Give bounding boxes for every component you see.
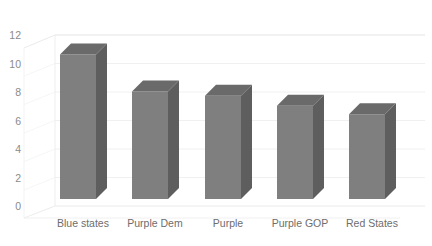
bar-side-face — [241, 85, 252, 199]
bar-side-face — [385, 103, 396, 199]
bar-purple-dem[interactable] — [132, 80, 179, 199]
y-tick-label: 8 — [15, 86, 21, 98]
bar-side-face — [96, 43, 107, 199]
bar-purple[interactable] — [205, 85, 252, 199]
bar-side-face — [313, 95, 324, 199]
chart-container: 12 10 8 6 4 2 0 — [0, 0, 432, 246]
x-category-label: Blue states — [57, 217, 109, 229]
bar-chart-3d: 12 10 8 6 4 2 0 — [0, 0, 432, 246]
bar-purple-gop[interactable] — [277, 95, 324, 199]
x-category-label: Purple GOP — [272, 217, 329, 229]
y-tick-label: 0 — [15, 200, 21, 212]
y-tick-label: 10 — [9, 58, 21, 70]
bar-front-face — [60, 54, 96, 199]
bar-blue-states[interactable] — [60, 43, 107, 199]
x-category-label: Purple Dem — [127, 217, 183, 229]
y-tick-label: 2 — [15, 172, 21, 184]
bar-red-states[interactable] — [349, 103, 396, 199]
y-tick-label: 4 — [15, 143, 21, 155]
x-category-label: Purple — [213, 217, 244, 229]
bar-front-face — [277, 106, 313, 199]
y-tick-label: 6 — [15, 115, 21, 127]
bar-front-face — [132, 91, 168, 199]
x-category-label: Red States — [346, 217, 398, 229]
bar-front-face — [349, 114, 385, 199]
x-axis-category-labels: Blue states Purple Dem Purple Purple GOP… — [57, 217, 398, 229]
bar-side-face — [168, 80, 179, 199]
y-tick-label: 12 — [9, 29, 21, 41]
bar-front-face — [205, 96, 241, 199]
